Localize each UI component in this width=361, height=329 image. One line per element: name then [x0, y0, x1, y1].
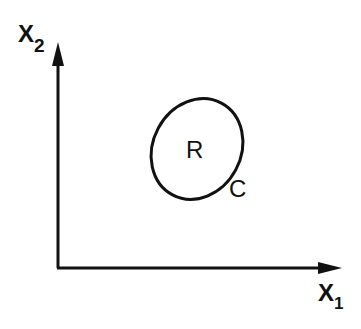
x-axis-label: X — [318, 279, 334, 306]
y-axis-arrow-icon — [52, 42, 64, 66]
diagram-canvas: X 2 X 1 R C — [0, 0, 361, 329]
boundary-label: C — [229, 175, 246, 202]
x-axis-arrow-icon — [318, 262, 342, 274]
y-axis-subscript: 2 — [34, 35, 45, 56]
y-axis-label: X — [18, 20, 34, 47]
x-axis-subscript: 1 — [334, 294, 343, 313]
region-label: R — [186, 136, 203, 163]
